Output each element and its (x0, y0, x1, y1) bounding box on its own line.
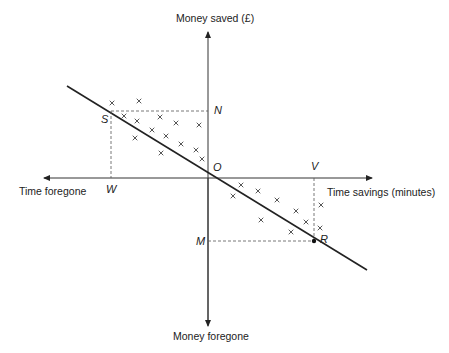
label-N: N (214, 104, 222, 116)
label-M: M (196, 235, 205, 247)
y-axis-negative-label: Money foregone (173, 330, 249, 342)
x-axis-positive-label: Time savings (minutes) (327, 186, 435, 198)
x-axis-negative-label: Time foregone (19, 185, 86, 197)
label-R: R (320, 233, 328, 245)
label-V: V (311, 160, 318, 172)
label-S: S (101, 113, 108, 125)
label-O: O (213, 161, 222, 173)
diagram-canvas (0, 0, 449, 353)
point-R (312, 239, 316, 243)
y-axis-positive-label: Money saved (£) (176, 12, 254, 24)
label-W: W (106, 183, 116, 195)
